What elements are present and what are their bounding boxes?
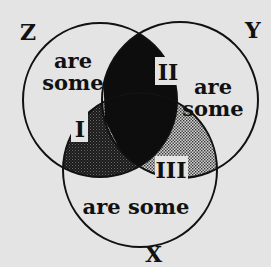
region-label-II: II [158,59,179,85]
region-label-III: III [156,157,187,183]
set-label-y: Y [244,17,261,43]
y-text-line2: some [182,96,243,121]
region-label-I: I [75,116,85,142]
set-label-z: Z [20,19,36,45]
set-label-x: X [145,241,163,267]
venn-diagram: Z Y X are some are some are some II I II… [0,0,271,267]
z-text-line2: some [42,70,103,95]
x-text: are some [83,194,190,219]
